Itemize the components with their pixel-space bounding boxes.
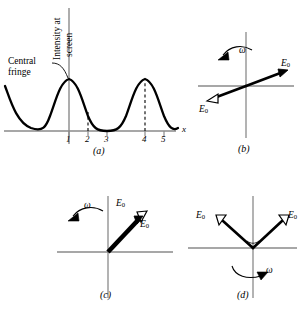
panel-b-phasor-left-arrowhead [207, 94, 218, 103]
panel-b-phasor-right-arrowhead [278, 69, 288, 77]
panel-c-e0-label-upper: E0 [116, 198, 125, 208]
panel-d-omega-label: ω [266, 265, 273, 275]
x-tick-label-3: 3 [104, 134, 109, 144]
y-axis-label-line2: screen [64, 33, 74, 57]
x-axis-ticks [69, 131, 164, 136]
panel-c-e0-label-lower: E0 [140, 219, 149, 229]
panel-d-phasor-left-shaft [223, 221, 253, 248]
panel-b-diagram [190, 10, 300, 160]
y-axis-label-line2-wrap: screen [64, 33, 74, 57]
panel-b-e0-label-left: E0 [199, 104, 208, 114]
x-tick-label-5: 5 [161, 134, 166, 144]
panel-c-omega-label: ω [84, 200, 91, 210]
central-fringe-line2: fringe [8, 67, 36, 78]
intensity-curve [5, 79, 178, 131]
panel-label-b: (b) [238, 143, 250, 154]
panel-label-a: (a) [93, 145, 105, 156]
panel-c-omega-arrowhead [68, 213, 79, 221]
panel-d-e0-right-sub: 0 [294, 213, 297, 220]
panel-c-phasor-shaft [108, 218, 140, 252]
panel-c-e0-lower-sub: 0 [146, 222, 149, 229]
panel-b-e0-left-sub: 0 [205, 107, 208, 114]
figure-container: Intensity at screen Central fringe 1 2 3… [0, 0, 300, 311]
x-tick-label-4: 4 [142, 134, 147, 144]
panel-c-e0-upper-sub: 0 [122, 201, 125, 208]
panel-d-e0-label-right: E0 [288, 210, 297, 220]
central-fringe-leader-line [52, 63, 68, 78]
y-axis-label: Intensity at [52, 18, 62, 60]
central-fringe-line1: Central [8, 56, 36, 67]
panel-b-omega-label: ω [239, 45, 246, 55]
panel-a-plot [0, 0, 200, 160]
panel-d-phasor-right-shaft [253, 221, 282, 248]
panel-b-omega-arrowhead [218, 52, 229, 60]
x-axis-label: x [182, 124, 186, 134]
y-axis-label-line1: Intensity at [52, 18, 62, 60]
central-fringe-annotation: Central fringe [8, 56, 36, 77]
panel-d-e0-label-left: E0 [196, 210, 205, 220]
panel-b-phasor-right-shaft [246, 72, 283, 86]
x-tick-label-2: 2 [85, 134, 90, 144]
panel-d-e0-left-sub: 0 [202, 213, 205, 220]
panel-d-diagram [185, 180, 300, 305]
panel-b-e0-label-right: E0 [281, 58, 290, 68]
panel-label-c: (c) [100, 289, 111, 300]
panel-b-phasor-left-shaft [214, 86, 246, 98]
x-tick-label-1: 1 [66, 134, 71, 144]
panel-b-e0-right-sub: 0 [287, 61, 290, 68]
panel-label-d: (d) [237, 289, 249, 300]
